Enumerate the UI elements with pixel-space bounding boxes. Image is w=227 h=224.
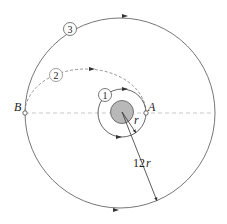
diagram-canvas: A B 3 2 1 r 12 r <box>0 0 227 224</box>
orbit-3-arrow-bottom-icon <box>113 208 119 212</box>
orbit-1-label: 1 <box>103 90 108 101</box>
orbit-2-arrow-icon <box>89 67 95 71</box>
point-b <box>23 111 27 115</box>
orbit-1-arrow-bottom-icon <box>116 135 122 139</box>
label-b: B <box>14 100 22 114</box>
outer-radius-label-variable: r <box>146 156 151 170</box>
outer-radius-label-number: 12 <box>133 156 145 170</box>
orbit-3-arrow-top-icon <box>122 14 128 18</box>
orbit-1-arrow-top-icon <box>122 87 128 91</box>
orbit-diagram: A B 3 2 1 r 12 r <box>0 0 227 224</box>
orbit-3-label: 3 <box>68 24 73 35</box>
orbit-2-label: 2 <box>54 70 59 81</box>
inner-radius-label: r <box>134 113 139 127</box>
label-a: A <box>147 100 156 114</box>
